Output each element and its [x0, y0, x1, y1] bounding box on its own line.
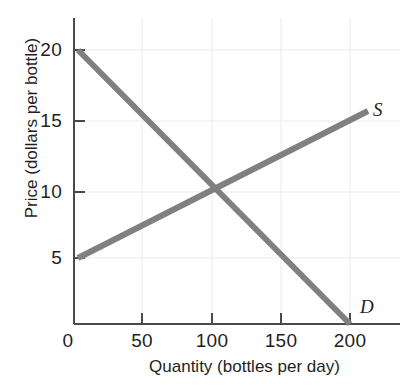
x-tick-label-200: 200 — [334, 330, 367, 352]
supply-curve — [78, 111, 368, 258]
supply-curve-label: S — [373, 99, 383, 121]
x-tick-marks — [142, 313, 350, 324]
y-tick-label-5: 5 — [36, 247, 62, 269]
x-tick-label-100: 100 — [196, 330, 229, 352]
x-tick-label-0: 0 — [63, 330, 74, 352]
y-axis-title: Price (dollars per bottle) — [22, 8, 42, 248]
x-tick-label-150: 150 — [265, 330, 298, 352]
x-tick-label-50: 50 — [131, 330, 153, 352]
plot-area — [0, 0, 417, 387]
gridlines — [74, 18, 400, 324]
demand-curve-label: D — [360, 296, 374, 318]
y-tick-marks — [74, 50, 85, 258]
x-axis-title: Quantity (bottles per day) — [0, 357, 417, 377]
supply-demand-chart: 20 15 10 5 0 50 100 150 200 Quantity (bo… — [0, 0, 417, 387]
